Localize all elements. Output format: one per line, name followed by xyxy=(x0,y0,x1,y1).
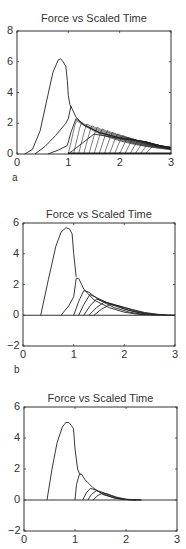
series-line xyxy=(61,278,175,315)
y-tick-label: 0 xyxy=(14,494,20,505)
series-line xyxy=(88,491,142,500)
y-tick-label: 8 xyxy=(7,25,13,36)
y-tick-label: 2 xyxy=(7,117,13,128)
x-tick-label: 0 xyxy=(21,534,27,545)
axes-frame xyxy=(24,407,177,531)
series-line xyxy=(25,59,72,154)
chart-a xyxy=(17,31,171,154)
y-tick-label: 4 xyxy=(13,248,19,259)
x-tick-label: 0 xyxy=(20,349,26,360)
x-tick-label: 3 xyxy=(168,157,174,168)
y-tick-label: −2 xyxy=(8,525,21,536)
x-tick-label: 2 xyxy=(121,349,127,360)
series-line xyxy=(47,423,80,501)
x-tick-label: 3 xyxy=(172,349,178,360)
x-tick-label: 1 xyxy=(71,349,77,360)
x-tick-label: 2 xyxy=(123,534,129,545)
axes-frame xyxy=(23,223,175,346)
x-tick-label: 3 xyxy=(174,534,180,545)
y-tick-label: 6 xyxy=(14,401,20,412)
y-tick-label: 6 xyxy=(13,217,19,228)
chart-b xyxy=(23,223,175,346)
y-tick-label: −2 xyxy=(7,340,20,351)
x-tick-label: 0 xyxy=(14,157,20,168)
y-tick-label: 0 xyxy=(7,148,13,159)
y-tick-label: 0 xyxy=(13,309,19,320)
x-tick-label: 1 xyxy=(65,157,71,168)
y-tick-label: 4 xyxy=(7,87,13,98)
plot-canvas xyxy=(0,0,186,549)
x-tick-label: 1 xyxy=(72,534,78,545)
chart-c xyxy=(24,407,177,531)
y-tick-label: 4 xyxy=(14,432,20,443)
y-tick-label: 2 xyxy=(14,463,20,474)
y-tick-label: 6 xyxy=(7,56,13,67)
y-tick-label: 2 xyxy=(13,279,19,290)
x-tick-label: 2 xyxy=(117,157,123,168)
